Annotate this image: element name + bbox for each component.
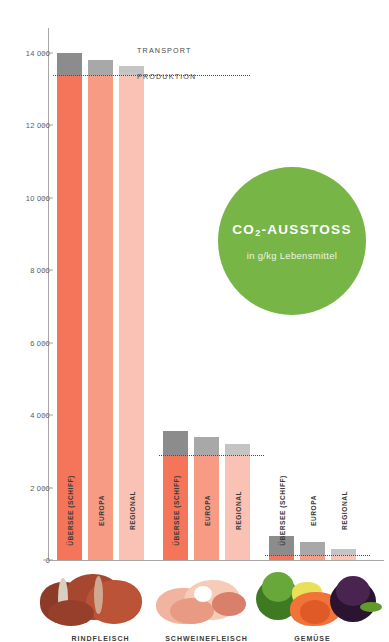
legend-item-produktion: PRODUKTION [137, 72, 257, 81]
bar-segment-produktion [88, 75, 113, 560]
bar[interactable]: EUROPA [300, 542, 325, 560]
category-label-veg: GEMÜSE [294, 635, 330, 642]
bar-segment-transport [300, 542, 325, 555]
bar-segment-produktion [119, 75, 144, 560]
food-shape [262, 572, 294, 602]
badge-title-rest: -AUSSTOSS [261, 222, 351, 237]
y-tick-mark [43, 125, 53, 126]
food-shape [48, 600, 94, 626]
y-tick-mark [43, 270, 53, 271]
food-shape [170, 598, 214, 624]
legend: TRANSPORT PRODUKTION [137, 46, 257, 81]
badge-title-co: CO [232, 222, 255, 237]
food-shape [300, 600, 330, 624]
bar-label: EUROPA [203, 495, 210, 526]
y-tick-mark [43, 560, 53, 561]
legend-item-transport: TRANSPORT [137, 46, 257, 55]
badge-title: CO2-AUSSTOSS [232, 222, 351, 237]
bar[interactable]: ÜBERSEE (SCHIFF) [163, 431, 188, 560]
food-shape [212, 592, 246, 616]
y-tick-mark [43, 197, 53, 198]
food-shape [360, 602, 382, 612]
bar-segment-transport [225, 444, 250, 455]
produktion-reference-line [265, 555, 370, 556]
y-tick-mark [43, 415, 53, 416]
bar-label: REGIONAL [128, 491, 135, 530]
food-shape [94, 576, 103, 614]
y-tick-mark [43, 487, 53, 488]
category-label-beef: RINDFLEISCH [71, 635, 129, 642]
y-tick-mark [43, 53, 53, 54]
bar-segment-transport [88, 60, 113, 74]
bar-label: REGIONAL [234, 491, 241, 530]
category-label-pork: SCHWEINEFLEISCH [165, 635, 248, 642]
pork-photo [150, 570, 260, 628]
bar-group: ÜBERSEE (SCHIFF)EUROPAREGIONAL [163, 0, 250, 636]
bar[interactable]: REGIONAL [119, 66, 144, 560]
bar-label: EUROPA [97, 495, 104, 526]
food-shape [336, 576, 370, 606]
beef-photo [34, 566, 156, 628]
bar-segment-transport [194, 437, 219, 455]
bar-label: ÜBERSEE (SCHIFF) [278, 475, 285, 546]
bar-label: ÜBERSEE (SCHIFF) [172, 475, 179, 546]
co2-badge: CO2-AUSSTOSS in g/kg Lebensmittel [218, 167, 366, 315]
bar-label: ÜBERSEE (SCHIFF) [66, 475, 73, 546]
badge-title-subscript: 2 [255, 228, 261, 238]
bar-group: ÜBERSEE (SCHIFF)EUROPAREGIONAL [269, 0, 356, 636]
bar-label: EUROPA [309, 495, 316, 526]
y-tick-mark [43, 342, 53, 343]
bar[interactable]: ÜBERSEE (SCHIFF) [57, 53, 82, 560]
produktion-reference-line [159, 455, 264, 456]
bar[interactable]: EUROPA [88, 60, 113, 560]
bar-segment-transport [163, 431, 188, 455]
bar-segment-transport [57, 53, 82, 75]
bar-label: REGIONAL [340, 491, 347, 530]
bar-group: ÜBERSEE (SCHIFF)EUROPAREGIONAL [57, 0, 144, 636]
badge-subtitle: in g/kg Lebensmittel [247, 250, 338, 261]
bar[interactable]: REGIONAL [225, 444, 250, 560]
vegetables-photo [256, 566, 384, 628]
food-shape [194, 586, 212, 602]
y-axis-line [48, 28, 49, 561]
bar[interactable]: ÜBERSEE (SCHIFF) [269, 536, 294, 560]
